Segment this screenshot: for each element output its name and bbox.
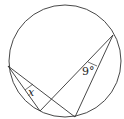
circle	[9, 5, 121, 117]
angle-x-label: x	[28, 86, 35, 99]
chord-c-b	[40, 35, 113, 111]
circle-diagram: x 9°	[0, 0, 124, 119]
angle-9-label: 9°	[82, 65, 95, 78]
chord-a-c	[8, 66, 40, 111]
